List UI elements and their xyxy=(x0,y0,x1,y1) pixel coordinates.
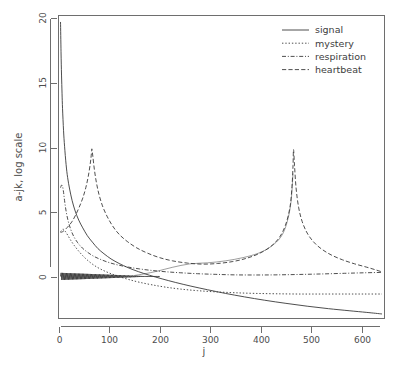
y-tick-label: 0 xyxy=(39,274,49,280)
plot-canvas: 05101520 0100200300400500600 j a-jk, log… xyxy=(0,0,401,371)
x-tick-label: 0 xyxy=(57,335,63,345)
x-axis-title: j xyxy=(202,346,206,357)
y-axis-title: a-jk, log scale xyxy=(13,133,24,202)
x-tick-label: 600 xyxy=(354,335,371,345)
y-tick-label: 10 xyxy=(39,142,49,154)
x-tick-label: 200 xyxy=(152,335,169,345)
x-tick-label: 500 xyxy=(303,335,320,345)
x-tick-label: 100 xyxy=(101,335,118,345)
y-tick-label: 20 xyxy=(39,12,49,24)
x-tick-label: 300 xyxy=(202,335,219,345)
legend-label-signal: signal xyxy=(315,24,343,35)
x-tick-label: 400 xyxy=(253,335,270,345)
legend-label-mystery: mystery xyxy=(315,38,354,49)
legend-label-heartbeat: heartbeat xyxy=(315,64,362,75)
y-tick-label: 5 xyxy=(39,209,49,215)
legend-label-respiration: respiration xyxy=(315,51,366,62)
chart-container: 05101520 0100200300400500600 j a-jk, log… xyxy=(0,0,401,371)
y-tick-label: 15 xyxy=(39,77,49,88)
